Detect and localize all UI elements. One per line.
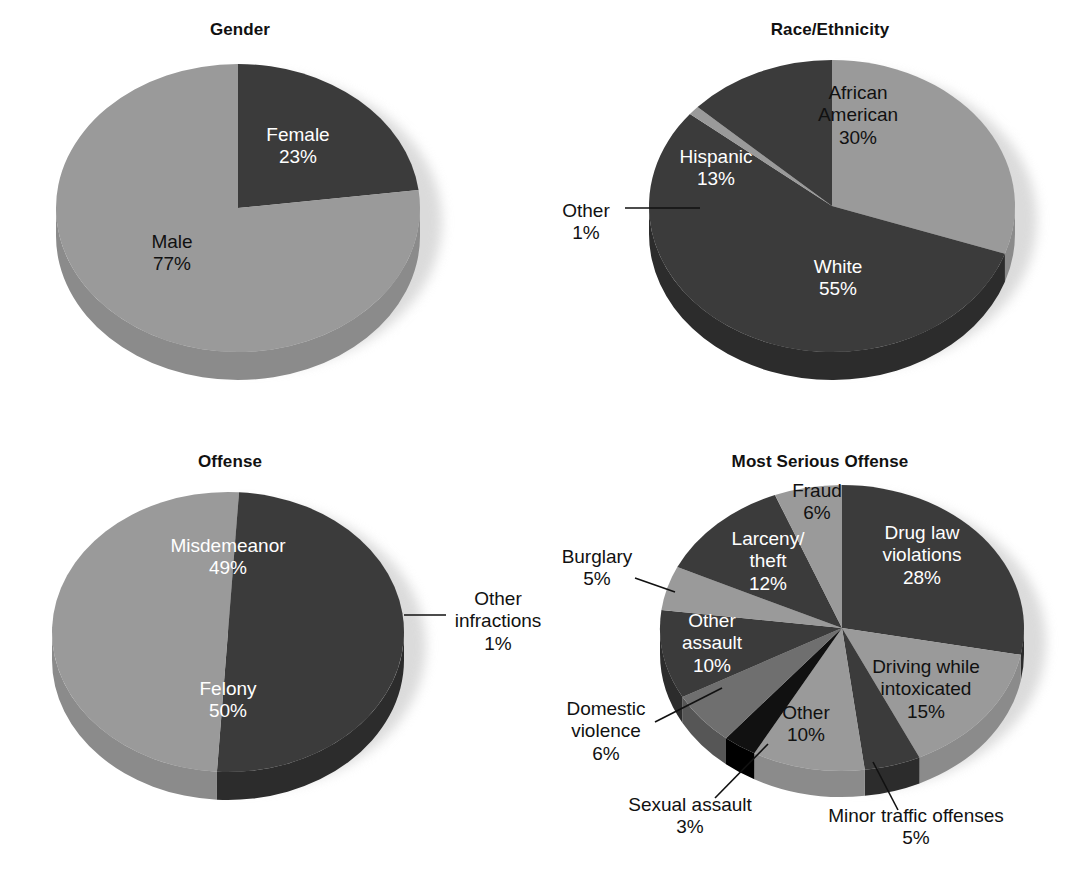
figure-canvas: GenderFemale23%Male77%Race/EthnicityAfri… <box>0 0 1077 877</box>
pie-slice-drug-law-violations[interactable] <box>842 485 1024 655</box>
pie-slices <box>660 485 1024 771</box>
pie-chart-most_serious_offense <box>0 0 1077 877</box>
